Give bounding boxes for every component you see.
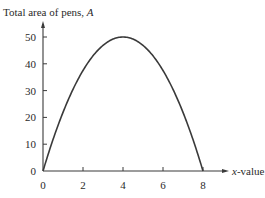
y-tick-label: 50	[25, 31, 37, 43]
y-axis-label: Total area of pens, A	[3, 6, 94, 18]
y-tick-label: 0	[31, 165, 37, 177]
x-axis-arrow-icon	[222, 169, 229, 173]
y-axis-arrow-icon	[41, 21, 45, 28]
x-axis-label: x-value	[231, 165, 264, 177]
data-line	[43, 37, 203, 171]
y-tick-label: 10	[25, 138, 37, 150]
y-tick-label: 40	[25, 58, 37, 70]
y-tick-label: 20	[25, 111, 37, 123]
y-axis-ticks: 01020304050	[25, 31, 47, 177]
chart: Total area of pens, A 01020304050 02468 …	[0, 0, 265, 198]
y-tick-label: 30	[25, 85, 37, 97]
x-tick-label: 2	[80, 179, 86, 191]
x-tick-label: 4	[120, 179, 126, 191]
x-tick-label: 6	[160, 179, 166, 191]
x-tick-label: 8	[200, 179, 206, 191]
x-tick-label: 0	[40, 179, 46, 191]
